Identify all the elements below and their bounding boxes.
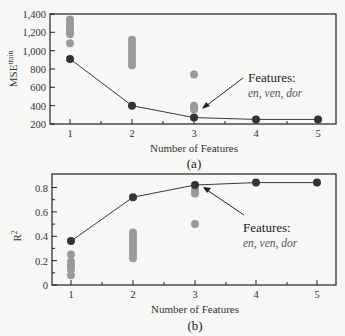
x-tick-label: 4: [253, 128, 259, 139]
y-tick-label: 1,400: [22, 9, 46, 20]
x-tick-label: 1: [68, 289, 73, 300]
x-tick-label: 4: [253, 289, 259, 300]
x-tick-label: 5: [315, 128, 320, 139]
x-axis-title-b: Number of Features: [151, 303, 239, 315]
y-tick-label: 0.4: [35, 231, 49, 242]
annotation-a: Features: en, ven, dor: [202, 70, 303, 109]
annotation-title: Features:: [248, 70, 296, 85]
x-tick-label: 3: [191, 128, 196, 139]
y-tick-label: 0.2: [35, 256, 48, 267]
annotation-b: Features: en, ven, dor: [203, 187, 298, 250]
panel-b: 0.8 0.6 0.4 0.2 0 R2 1 2 3 4 5 Number of…: [10, 174, 336, 333]
panel-a: 1,400 1,200 1,000 800 600 400 200 MSEtra…: [6, 9, 336, 171]
annotation-title: Features:: [243, 220, 291, 235]
y-tick-label: 200: [30, 119, 46, 130]
arrow-head-icon: [202, 102, 210, 109]
y-tick-label: 0.6: [35, 207, 48, 218]
y-axis-title-a: MSEtrain: [6, 51, 19, 88]
annotation-features: en, ven, dor: [243, 237, 298, 250]
best-subset-points-b: [67, 179, 321, 246]
figure: 1,400 1,200 1,000 800 600 400 200 MSEtra…: [0, 0, 345, 336]
y-tick-label: 1,200: [22, 27, 46, 38]
x-tick-label: 5: [314, 289, 319, 300]
x-tick-label: 2: [129, 128, 134, 139]
y-axis-b: 0.8 0.6 0.4 0.2 0: [35, 183, 57, 292]
y-tick-label: 1,000: [22, 46, 46, 57]
x-tick-label: 1: [67, 128, 72, 139]
x-axis-a: 1 2 3 4 5: [67, 119, 320, 139]
y-tick-label: 400: [30, 101, 46, 112]
y-tick-label: 800: [30, 64, 46, 75]
gray-points-a: [66, 16, 198, 114]
caption-a: (a): [187, 156, 201, 171]
x-tick-label: 2: [130, 289, 135, 300]
y-tick-label: 0: [43, 280, 48, 291]
y-tick-label: 600: [30, 82, 46, 93]
caption-b: (b): [187, 318, 202, 333]
x-tick-label: 3: [192, 289, 197, 300]
x-axis-title-a: Number of Features: [150, 142, 238, 154]
annotation-features: en, ven, dor: [248, 87, 303, 100]
y-axis-title-b: R2: [10, 230, 23, 241]
y-tick-label: 0.8: [35, 183, 48, 194]
x-axis-b: 1 2 3 4 5: [68, 280, 319, 300]
